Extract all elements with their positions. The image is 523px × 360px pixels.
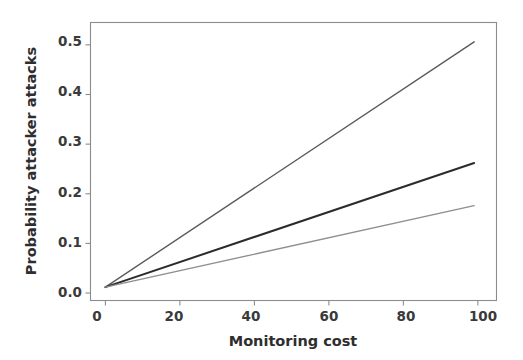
y-tick-label-0: 0.0	[58, 284, 82, 300]
y-tick-label-1: 0.1	[58, 234, 82, 250]
chart-figure: 0.5 0.4 0.3 0.2 0.1 0.0 0 20 40 60 80 10…	[0, 0, 523, 360]
x-tick-label-3: 60	[320, 308, 339, 324]
y-axis-title: Probability attacker attacks	[23, 47, 39, 275]
x-tick-label-2: 40	[242, 308, 261, 324]
x-tick-label-5: 100	[469, 308, 497, 324]
x-tick-label-0: 0	[92, 308, 101, 324]
y-tick-label-5: 0.5	[58, 33, 82, 49]
x-axis-title: Monitoring cost	[229, 333, 358, 349]
y-tick-label-3: 0.3	[58, 133, 82, 149]
x-tick-label-1: 20	[165, 308, 184, 324]
y-tick-label-2: 0.2	[58, 184, 82, 200]
line-chart: 0.5 0.4 0.3 0.2 0.1 0.0 0 20 40 60 80 10…	[0, 0, 523, 360]
y-tick-label-4: 0.4	[58, 83, 82, 99]
x-tick-label-4: 80	[397, 308, 416, 324]
